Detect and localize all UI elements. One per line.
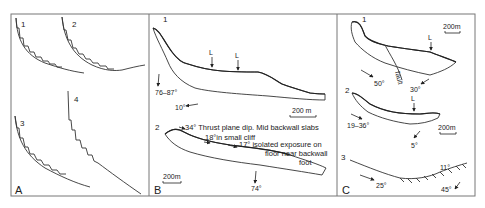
dip-right-label: 30°	[410, 86, 421, 93]
dip-right-label: 45°	[441, 186, 452, 193]
dip-left-label: 50°	[374, 80, 385, 87]
foot-annotation: foot	[299, 158, 312, 167]
fault-label: fault	[394, 70, 404, 85]
panel-b: 1 L L 76–87° 10° 200 m 2 34° Thrust plan…	[153, 15, 328, 196]
landslide-marker: L	[428, 34, 432, 41]
dip-range-label: 76–87°	[155, 89, 177, 96]
figure-frame	[11, 14, 475, 196]
landslide-marker: L	[235, 52, 239, 59]
profile-2: 2	[62, 17, 145, 70]
profile-2-label: 2	[72, 20, 77, 29]
profile-4: 4	[68, 91, 141, 194]
section-c2: 2 L 19–36° 5° 200m	[345, 86, 456, 149]
dip-low-label: 10°	[175, 104, 186, 111]
landslide-marker: L	[411, 95, 415, 102]
dip-left-label: 19–36°	[347, 122, 369, 129]
dip-mid-label: 11°	[440, 164, 450, 171]
scale-bar-label: 200 m	[292, 107, 312, 114]
section-c1: 1 L fault 50° 30° 200m	[351, 15, 460, 93]
section-c2-label: 2	[345, 86, 350, 95]
panel-c: 1 L fault 50° 30° 200m 2 L 19–36° 5° 200	[341, 15, 467, 196]
floor-annotation: floor near backwall	[265, 149, 328, 158]
scale-bar-label: 200m	[438, 124, 456, 131]
isolated-annotation: 17° isolated exposure on	[239, 140, 322, 149]
thrust-annotation: 34° Thrust plane dip. Mid backwall slabs	[185, 123, 319, 132]
dip-left-label: 25°	[376, 182, 387, 189]
section-b1-label: 1	[163, 15, 168, 24]
panel-a: 1 2 3 4 A	[15, 17, 145, 196]
profile-3: 3	[15, 116, 90, 187]
landslide-marker: L	[209, 49, 213, 56]
section-c3-label: 3	[341, 153, 346, 162]
section-b2-label: 2	[155, 123, 160, 132]
scale-bar-label: 200m	[163, 173, 181, 180]
section-c1-label: 1	[362, 15, 367, 24]
profile-4-label: 4	[74, 95, 79, 104]
section-c3: 3 25° 11° 45°	[341, 153, 467, 193]
panel-letter-c: C	[342, 184, 350, 196]
dip-bottom-label: 5°	[411, 142, 418, 149]
panel-letter-b: B	[154, 184, 161, 196]
profile-1-label: 1	[21, 20, 26, 29]
dip-bottom-label: 74°	[251, 185, 262, 192]
profile-3-label: 3	[20, 119, 25, 128]
figure-canvas: 1 2 3 4 A 1 L L	[0, 0, 485, 208]
scale-bar-label: 200m	[443, 23, 461, 30]
section-b1: 1 L L 76–87° 10° 200 m	[153, 15, 325, 117]
section-b2: 2 34° Thrust plane dip. Mid backwall sla…	[155, 123, 328, 192]
panel-letter-a: A	[15, 184, 23, 196]
